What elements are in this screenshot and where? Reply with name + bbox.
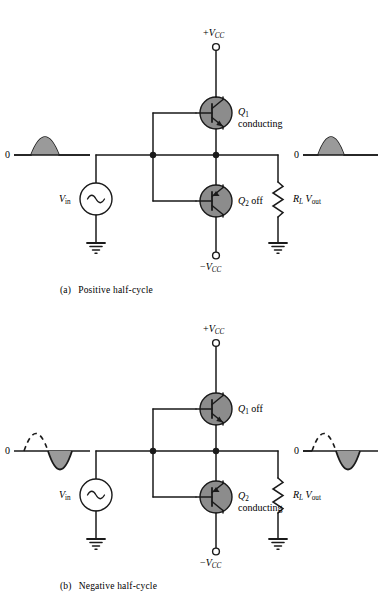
waveform-input-b-dashed-positive xyxy=(24,434,48,452)
label-load-vout-a: RL Vout xyxy=(293,193,321,204)
label-supply-negative-b: −VCC xyxy=(200,557,221,568)
waveform-output-b xyxy=(303,434,378,470)
label-zero-input-a: 0 xyxy=(5,149,10,160)
label-q1-a: Q1 conducting xyxy=(238,106,282,129)
panel-positive-half-cycle: +VCC −VCC Q1 conducting Q2 off Vin RL Vo… xyxy=(0,0,380,305)
label-zero-output-b: 0 xyxy=(294,445,299,456)
ground-symbol-source xyxy=(87,539,105,549)
resistor-rl-zigzag xyxy=(273,182,283,217)
label-vin-b: Vin xyxy=(59,489,71,500)
junction-dot-output xyxy=(213,152,219,158)
panel-negative-half-cycle: +VCC −VCC Q1 off Q2 conducting Vin RL Vo… xyxy=(0,296,380,601)
label-load-vout-b: RL Vout xyxy=(293,489,321,500)
junction-dot-output xyxy=(213,448,219,454)
junction-dot-input xyxy=(150,152,156,158)
label-supply-positive-b: +VCC xyxy=(203,323,224,334)
waveform-output-b-dashed-positive xyxy=(312,434,336,452)
caption-b: (b)Negative half-cycle xyxy=(60,581,157,591)
circuit-schematic-b xyxy=(0,296,380,601)
supply-terminal-positive xyxy=(213,340,220,347)
label-q1-b: Q1 off xyxy=(238,403,263,414)
circuit-schematic-a xyxy=(0,0,380,305)
waveform-input-b xyxy=(14,434,90,470)
caption-a: (a)Positive half-cycle xyxy=(60,285,153,295)
waveform-output-a xyxy=(303,137,378,155)
label-q2-a: Q2 off xyxy=(238,195,263,206)
label-q2-b: Q2 conducting xyxy=(238,490,282,513)
ground-symbol-source xyxy=(87,243,105,253)
waveform-input-a xyxy=(14,137,90,155)
label-supply-negative-a: −VCC xyxy=(200,261,221,272)
label-zero-input-b: 0 xyxy=(5,445,10,456)
label-supply-positive-a: +VCC xyxy=(203,27,224,38)
supply-terminal-positive xyxy=(213,44,220,51)
label-zero-output-a: 0 xyxy=(294,149,299,160)
ground-symbol-load xyxy=(269,243,287,253)
supply-terminal-negative xyxy=(213,252,220,259)
junction-dot-input xyxy=(150,448,156,454)
ground-symbol-load xyxy=(269,539,287,549)
supply-terminal-negative xyxy=(213,548,220,555)
label-vin-a: Vin xyxy=(59,193,71,204)
